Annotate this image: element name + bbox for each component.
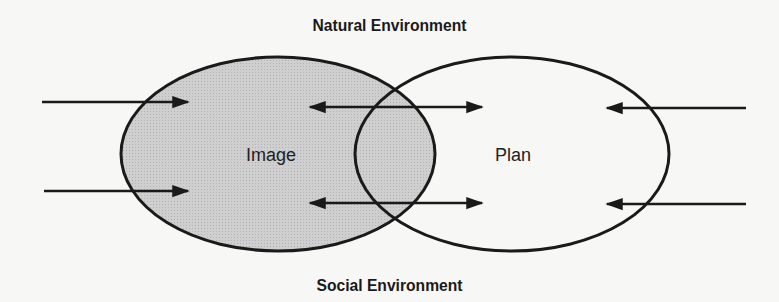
plan-label: Plan [495, 145, 531, 166]
social-environment-label: Social Environment [31, 276, 748, 296]
venn-diagram [0, 0, 779, 302]
image-label: Image [246, 145, 296, 166]
